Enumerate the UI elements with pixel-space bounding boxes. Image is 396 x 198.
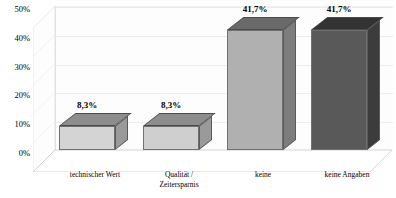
x-axis-category-label: technischer Wert (47, 170, 143, 180)
x-axis-category-line: Qualität / (131, 170, 227, 180)
bar-front-face (311, 30, 367, 150)
bar-side-face (283, 20, 296, 150)
bar-value-label: 8,3% (77, 100, 97, 110)
bar-series: 8,3% 8,3% 41,7% 41,7% (33, 6, 393, 172)
bar-value-label: 8,3% (161, 100, 181, 110)
x-axis-category-line: keine (215, 170, 311, 180)
y-axis-tick-label: 0% (0, 149, 30, 158)
bar-value-label: 41,7% (327, 4, 352, 14)
bar-column[interactable]: 41,7% (311, 30, 367, 150)
bar-column[interactable]: 8,3% (59, 126, 115, 150)
x-axis-category-line: Zeitersparnis (131, 180, 227, 190)
x-axis-category-label: Qualität / Zeitersparnis (131, 170, 227, 189)
y-axis-tick-label: 40% (0, 33, 30, 42)
bar-column[interactable]: 41,7% (227, 30, 283, 150)
y-axis-tick-label: 30% (0, 62, 30, 71)
bar-column[interactable]: 8,3% (143, 126, 199, 150)
y-axis-tick-label: 10% (0, 120, 30, 129)
bar-front-face (227, 30, 283, 150)
y-axis-tick-label: 50% (0, 5, 30, 14)
x-axis-category-line: technischer Wert (47, 170, 143, 180)
y-axis: 50% 40% 30% 20% 10% 0% (0, 0, 30, 198)
bar-side-face (367, 20, 380, 150)
plot-area: 8,3% 8,3% 41,7% 41,7% (33, 6, 393, 172)
x-axis: technischer Wert Qualität / Zeitersparni… (33, 170, 393, 198)
chart-container: 50% 40% 30% 20% 10% 0% (0, 0, 396, 198)
x-axis-category-line: keine Angaben (299, 170, 395, 180)
bar-front-face (143, 126, 199, 150)
x-axis-category-label: keine Angaben (299, 170, 395, 180)
y-axis-tick-label: 20% (0, 91, 30, 100)
bar-value-label: 41,7% (243, 4, 268, 14)
x-axis-category-label: keine (215, 170, 311, 180)
bar-front-face (59, 126, 115, 150)
